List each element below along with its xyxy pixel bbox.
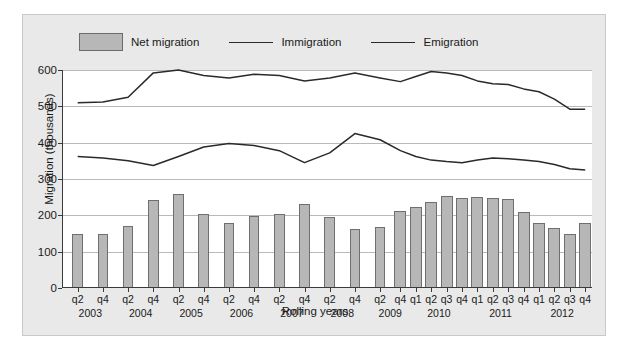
legend-label-emigration: Emigration	[423, 36, 478, 48]
x-tick-label: q4	[395, 293, 407, 305]
x-tick-label: q1	[410, 293, 422, 305]
legend-swatch-icon	[79, 33, 123, 51]
x-tick-mark	[380, 288, 381, 292]
legend-line-icon	[371, 42, 415, 43]
x-tick-mark	[477, 288, 478, 292]
chart-panel: Net migration Immigration Emigration Mig…	[22, 14, 606, 336]
x-tick-mark	[254, 288, 255, 292]
x-tick-label: q1	[472, 293, 484, 305]
y-tick-label: 300	[38, 173, 57, 185]
x-tick-mark	[493, 288, 494, 292]
y-tick-label: 0	[51, 282, 57, 294]
x-tick-label: q4	[97, 293, 109, 305]
x-tick-label: q2	[173, 293, 185, 305]
legend-label-immigration: Immigration	[281, 36, 341, 48]
x-tick-mark	[570, 288, 571, 292]
x-tick-label: q2	[72, 293, 84, 305]
x-tick-label: q4	[349, 293, 361, 305]
x-tick-label: q4	[579, 293, 591, 305]
x-tick-label: q3	[441, 293, 453, 305]
x-tick-mark	[585, 288, 586, 292]
x-tick-label: q2	[425, 293, 437, 305]
x-tick-label: q4	[456, 293, 468, 305]
x-tick-mark	[554, 288, 555, 292]
x-tick-label: q1	[533, 293, 545, 305]
y-tick-label: 500	[38, 100, 57, 112]
x-tick-mark	[179, 288, 180, 292]
x-tick-label: q3	[564, 293, 576, 305]
legend-item-immigration: Immigration	[229, 36, 341, 48]
x-tick-mark	[204, 288, 205, 292]
x-axis-line	[62, 287, 592, 288]
x-tick-mark	[78, 288, 79, 292]
x-tick-mark	[279, 288, 280, 292]
x-tick-label: q4	[518, 293, 530, 305]
x-tick-mark	[447, 288, 448, 292]
x-tick-mark	[355, 288, 356, 292]
x-axis-title: Rolling years	[23, 305, 607, 317]
x-tick-label: q2	[273, 293, 285, 305]
x-tick-mark	[524, 288, 525, 292]
line-immigration	[78, 70, 586, 109]
x-tick-mark	[508, 288, 509, 292]
legend-line-icon	[229, 42, 273, 43]
x-tick-mark	[431, 288, 432, 292]
legend-item-net-migration: Net migration	[79, 33, 199, 51]
y-axis-line	[62, 70, 63, 288]
x-tick-mark	[539, 288, 540, 292]
y-tick-mark	[58, 288, 62, 289]
y-tick-label: 100	[38, 246, 57, 258]
y-tick-label: 600	[38, 64, 57, 76]
x-tick-label: q3	[502, 293, 514, 305]
plot-area: 0100200300400500600 q2q4q2q4q2q4q2q4q2q4…	[62, 70, 592, 288]
x-tick-label: q2	[374, 293, 386, 305]
x-tick-label: q4	[198, 293, 210, 305]
y-tick-label: 400	[38, 137, 57, 149]
x-tick-label: q4	[248, 293, 260, 305]
x-tick-mark	[330, 288, 331, 292]
x-tick-label: q2	[549, 293, 561, 305]
legend-label-net-migration: Net migration	[131, 36, 199, 48]
x-tick-mark	[462, 288, 463, 292]
x-tick-mark	[305, 288, 306, 292]
y-tick-label: 200	[38, 209, 57, 221]
x-tick-label: q2	[324, 293, 336, 305]
line-series-group	[62, 70, 592, 288]
x-tick-label: q2	[487, 293, 499, 305]
x-tick-label: q4	[299, 293, 311, 305]
x-tick-mark	[128, 288, 129, 292]
line-emigration	[78, 134, 586, 170]
x-tick-label: q2	[223, 293, 235, 305]
x-tick-mark	[153, 288, 154, 292]
x-tick-mark	[416, 288, 417, 292]
x-tick-mark	[103, 288, 104, 292]
x-tick-label: q2	[122, 293, 134, 305]
x-tick-mark	[229, 288, 230, 292]
x-tick-mark	[400, 288, 401, 292]
chart-legend: Net migration Immigration Emigration	[79, 31, 519, 53]
x-tick-label: q4	[147, 293, 159, 305]
legend-item-emigration: Emigration	[371, 36, 478, 48]
